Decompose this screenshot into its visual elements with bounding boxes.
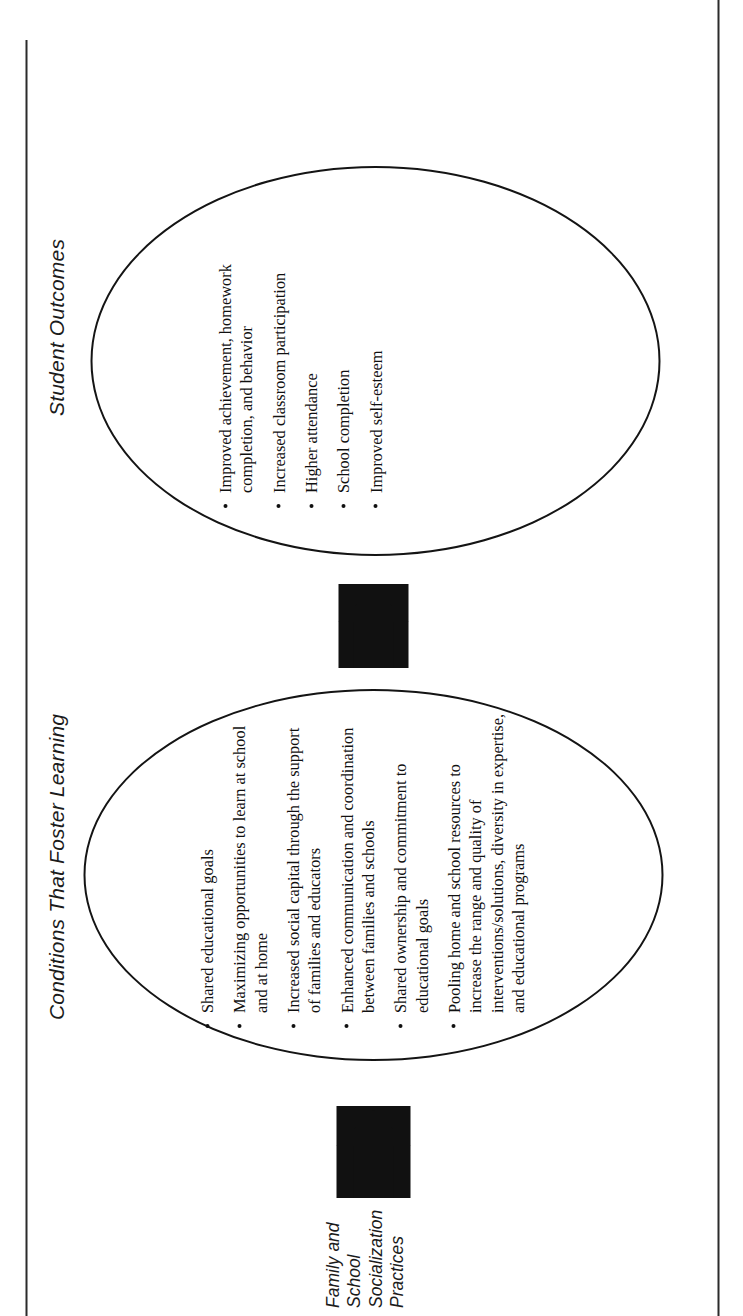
bullet-dot-icon	[205, 1024, 209, 1028]
bullet-dot-icon	[344, 1024, 348, 1028]
list-item: Increased social capital through the sup…	[282, 712, 325, 1030]
bullet-dot-icon	[373, 504, 377, 508]
list-item: Pooling home and school resources to inc…	[443, 712, 528, 1030]
bullet-dot-icon	[237, 1024, 241, 1028]
list-item: Shared educational goals	[196, 712, 217, 1030]
arrow-practices-to-conditions-icon	[336, 1106, 410, 1198]
figure-canvas: Family and School Socialization Practice…	[0, 0, 743, 1316]
family-school-socialization-practices-caption: Family and School Socialization Practice…	[322, 1196, 407, 1308]
caption-line-2: School	[343, 1196, 364, 1308]
list-item: Enhanced communication and coordination …	[336, 712, 379, 1030]
list-item: Improved achievement, homework completio…	[214, 210, 257, 510]
bullet-dot-icon	[276, 504, 280, 508]
outcomes-stage-heading: Student Outcomes	[44, 239, 68, 416]
arrow-shaft	[353, 1142, 393, 1198]
caption-line-3: Socialization	[365, 1196, 386, 1308]
conditions-stage-heading: Conditions That Foster Learning	[44, 714, 68, 1020]
list-item-label: School completion	[333, 370, 352, 493]
bullets-conditions: Shared educational goals Maximizing oppo…	[196, 712, 528, 1030]
list-item: School completion	[332, 210, 353, 510]
bullet-dot-icon	[223, 504, 227, 508]
list-item: Improved self-esteem	[365, 210, 386, 510]
list-item-label: Shared ownership and commitment to educa…	[390, 764, 430, 1013]
arrow-conditions-to-outcomes-icon	[338, 584, 408, 668]
list-item: Maximizing opportunities to learn at sch…	[228, 712, 271, 1030]
bullet-dot-icon	[309, 504, 313, 508]
list-item-label: Enhanced communication and coordination …	[337, 728, 377, 1013]
list-item-label: Increased social capital through the sup…	[283, 728, 323, 1013]
list-item-label: Improved achievement, homework completio…	[215, 264, 255, 493]
arrow-head	[336, 1110, 410, 1146]
caption-line-1: Family and	[322, 1196, 343, 1308]
bullet-dot-icon	[398, 1024, 402, 1028]
bullet-dot-icon	[451, 1024, 455, 1028]
list-item: Increased classroom participation	[268, 210, 289, 510]
conditions-bullet-list: Shared educational goals Maximizing oppo…	[196, 712, 528, 1030]
list-item-label: Maximizing opportunities to learn at sch…	[229, 726, 269, 1013]
arrow-shaft	[353, 618, 393, 668]
outcomes-bullet-list: Improved achievement, homework completio…	[214, 210, 386, 510]
bullets-outcomes: Improved achievement, homework completio…	[214, 210, 386, 510]
list-item-label: Higher attendance	[301, 373, 320, 493]
list-item: Higher attendance	[300, 210, 321, 510]
list-item-label: Pooling home and school resources to inc…	[444, 714, 527, 1013]
bullet-dot-icon	[291, 1024, 295, 1028]
page-rule-top	[25, 40, 27, 1316]
list-item-label: Shared educational goals	[197, 849, 216, 1013]
arrow-head	[338, 588, 408, 622]
bullet-dot-icon	[341, 504, 345, 508]
list-item-label: Increased classroom participation	[269, 273, 288, 493]
list-item-label: Improved self-esteem	[366, 351, 385, 493]
page-rule-bottom	[717, 0, 719, 1316]
caption-line-4: Practices	[386, 1196, 407, 1308]
list-item: Shared ownership and commitment to educa…	[389, 712, 432, 1030]
